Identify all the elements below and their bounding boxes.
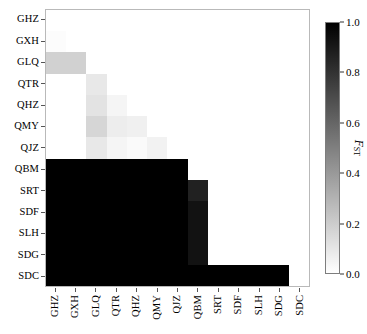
x-tick-label: SDG — [274, 295, 285, 316]
heatmap-cell — [86, 74, 106, 95]
heatmap-cell — [188, 10, 208, 31]
heatmap-cell — [167, 74, 187, 95]
heatmap-cell — [208, 95, 228, 116]
heatmap-cell — [107, 137, 127, 158]
heatmap-cell — [127, 159, 147, 180]
y-tick-label: QHZ — [17, 100, 39, 111]
heatmap-cell — [127, 244, 147, 265]
heatmap-cell — [147, 180, 167, 201]
heatmap-cell — [289, 222, 309, 243]
heatmap-cell — [107, 265, 127, 286]
y-tick-label: SRT — [20, 186, 39, 197]
heatmap-cell — [147, 74, 167, 95]
y-tick-glq: GLQ — [0, 52, 45, 73]
heatmap-cell — [188, 95, 208, 116]
y-tick-label: QMY — [14, 121, 39, 132]
heatmap-cell — [127, 265, 147, 286]
heatmap-cell — [167, 180, 187, 201]
heatmap-cell — [188, 137, 208, 158]
heatmap-cell — [248, 95, 268, 116]
heatmap-cell — [46, 74, 66, 95]
y-tick-slh: SLH — [0, 223, 45, 244]
heatmap-cell — [127, 10, 147, 31]
heatmap-cell — [86, 180, 106, 201]
heatmap-cell — [289, 95, 309, 116]
y-tick-qhz: QHZ — [0, 95, 45, 116]
heatmap-cell — [127, 180, 147, 201]
x-tick-label: SDC — [295, 295, 306, 316]
heatmap-cell — [127, 95, 147, 116]
colorbar-tick-mark — [340, 122, 344, 123]
x-tick-label: GLQ — [91, 295, 102, 317]
heatmap-cell — [208, 31, 228, 52]
heatmap-cell — [228, 116, 248, 137]
heatmap-cell — [248, 159, 268, 180]
heatmap-cell — [66, 31, 86, 52]
heatmap-cell — [66, 244, 86, 265]
heatmap-cell — [127, 74, 147, 95]
heatmap-cell — [269, 52, 289, 73]
heatmap-cell — [208, 10, 228, 31]
x-tick-mark — [259, 288, 260, 292]
heatmap-cell — [46, 265, 66, 286]
x-tick-label: SDF — [233, 295, 244, 315]
colorbar-tick-label: 0.8 — [346, 67, 360, 78]
heatmap-cell — [127, 116, 147, 137]
y-tick-label: SLH — [19, 228, 39, 239]
heatmap-cell — [66, 159, 86, 180]
heatmap-cell — [107, 244, 127, 265]
heatmap-cell — [66, 10, 86, 31]
heatmap-cell — [107, 52, 127, 73]
heatmap-cell — [188, 201, 208, 222]
y-tick-label: SDG — [18, 250, 39, 261]
heatmap-cell — [46, 222, 66, 243]
heatmap-cell — [66, 116, 86, 137]
y-tick-label: GHZ — [17, 14, 39, 25]
x-tick-srt: SRT — [208, 288, 228, 334]
heatmap-cell — [167, 265, 187, 286]
heatmap-cell — [208, 116, 228, 137]
heatmap-cell — [107, 222, 127, 243]
x-tick-mark — [177, 288, 178, 292]
heatmap-cell — [269, 31, 289, 52]
heatmap-cell — [147, 52, 167, 73]
heatmap-cell — [127, 137, 147, 158]
heatmap-cell — [46, 244, 66, 265]
x-tick-qtr: QTR — [106, 288, 126, 334]
heatmap-cell — [248, 31, 268, 52]
x-tick-ghz: GHZ — [45, 288, 65, 334]
colorbar-tick: 0.4 — [340, 168, 360, 179]
y-tick-qmy: QMY — [0, 116, 45, 137]
y-tick-gxh: GXH — [0, 30, 45, 51]
heatmap-cell — [66, 95, 86, 116]
heatmap-cell — [208, 52, 228, 73]
heatmap-cell — [289, 201, 309, 222]
heatmap-cell — [147, 116, 167, 137]
x-tick-sdg: SDG — [269, 288, 289, 334]
colorbar-tick: 0.6 — [340, 117, 360, 128]
heatmap-cell — [107, 201, 127, 222]
heatmap-cell — [289, 159, 309, 180]
heatmap-cell — [167, 201, 187, 222]
heatmap-cell — [208, 222, 228, 243]
x-tick-mark — [279, 288, 280, 292]
heatmap-cell — [66, 201, 86, 222]
heatmap-cell — [107, 10, 127, 31]
heatmap-cell — [66, 222, 86, 243]
colorbar-title-main: F — [353, 140, 365, 147]
heatmap-cell — [167, 31, 187, 52]
colorbar-tick-label: 0.2 — [346, 218, 360, 229]
y-tick-sdf: SDF — [0, 201, 45, 222]
y-tick-label: QJZ — [21, 143, 39, 154]
y-tick-label: QBM — [15, 164, 39, 175]
x-tick-qmy: QMY — [147, 288, 167, 334]
heatmap-cell — [86, 201, 106, 222]
y-tick-label: QTR — [18, 79, 39, 90]
heatmap-cell — [228, 74, 248, 95]
x-tick-mark — [218, 288, 219, 292]
heatmap-cell — [289, 265, 309, 286]
heatmap-cell — [107, 95, 127, 116]
x-tick-label: GHZ — [50, 295, 61, 317]
x-tick-mark — [157, 288, 158, 292]
colorbar-tick-mark — [340, 223, 344, 224]
